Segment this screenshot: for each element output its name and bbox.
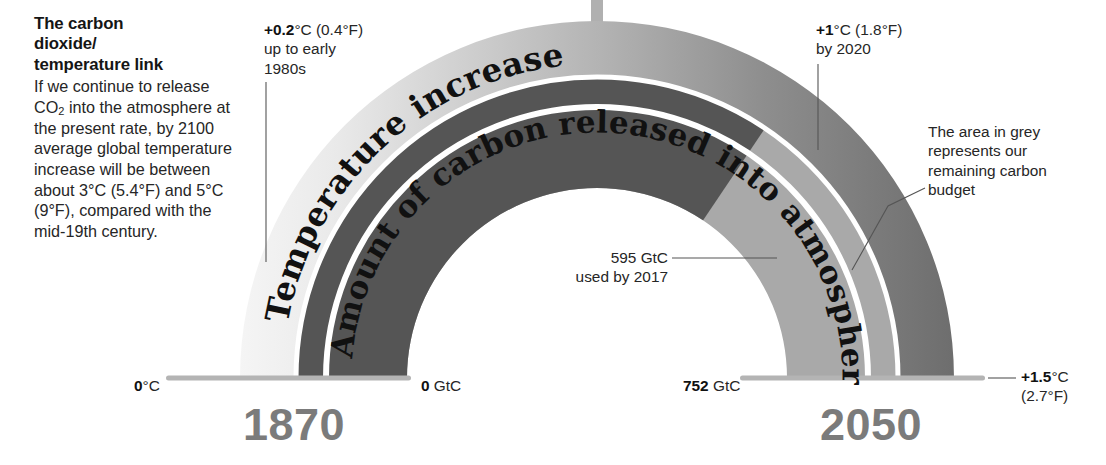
axis-label-right-carbon: 752 GtC [683,377,740,395]
intro-heading-line-3: temperature link [34,55,163,74]
axis-right-carbon-value: 752 [683,377,709,394]
annotation-temp-early-value: +0.2 [264,21,294,38]
intro-body-part-2: into the atmosphere at the present rate,… [34,98,232,240]
baseline-left [166,376,411,381]
annotation-carbon-used-line1: 595 GtC [611,249,668,266]
annotation-temp-2020: +1°C (1.8°F) by 2020 [816,20,981,59]
axis-label-left-temperature: 0°C [134,377,160,395]
intro-heading: The carbon dioxide/ temperature link [34,14,234,75]
axis-label-left-carbon: 0 GtC [421,377,461,395]
year-label-end: 2050 [820,402,922,447]
annotation-temp-2020-unit: °C (1.8°F) [834,21,903,38]
annotation-temp-early-1980s: +0.2°C (0.4°F) up to early 1980s [264,20,434,78]
infographic-canvas: Temperature increase Amount of carbon re… [0,0,1106,465]
intro-heading-line-2: dioxide/ [34,34,97,53]
year-label-start: 1870 [243,402,345,447]
annotation-carbon-used: 595 GtC used by 2017 [548,248,668,287]
axis-left-carbon-value: 0 [421,377,430,394]
intro-body: If we continue to release CO2 into the a… [34,76,234,242]
annotation-temp-2050-unit: °C [1051,368,1068,385]
axis-left-temp-unit: °C [143,377,160,394]
annotation-temp-2020-line2: by 2020 [816,40,871,57]
axis-right-carbon-unit: GtC [713,377,740,394]
axis-left-carbon-unit: GtC [434,377,461,394]
annotation-carbon-budget: The area in grey represents our remainin… [928,122,1096,200]
intro-heading-line-1: The carbon [34,14,123,33]
annotation-temp-2020-value: +1 [816,21,834,38]
annotation-temp-early-line3: 1980s [264,60,306,77]
annotation-carbon-used-line2: used by 2017 [576,268,668,285]
annotation-temp-early-line2: up to early [264,40,336,57]
annotation-temp-2050: +1.5°C (2.7°F) [1021,367,1105,406]
intro-block: The carbon dioxide/ temperature link If … [34,14,234,242]
axis-left-temp-value: 0 [134,377,143,394]
annotation-temp-early-unit: °C (0.4°F) [294,21,363,38]
annotation-temp-2050-line2: (2.7°F) [1021,387,1068,404]
annotation-temp-2050-value: +1.5 [1021,368,1051,385]
